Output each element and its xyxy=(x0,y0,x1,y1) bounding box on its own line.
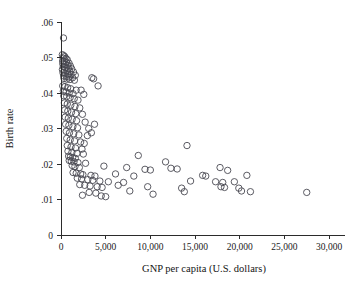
y-axis-tick-label: .05 xyxy=(41,53,53,63)
y-axis-tick-label: .03 xyxy=(41,124,53,134)
data-point xyxy=(131,173,137,179)
x-axis-tick-label: 10,000 xyxy=(137,242,163,252)
y-axis-tick-label: .02 xyxy=(41,160,53,170)
data-point xyxy=(79,111,85,117)
data-point xyxy=(112,171,118,177)
axes-group xyxy=(57,22,345,239)
data-point xyxy=(168,165,174,171)
data-point xyxy=(73,117,79,123)
data-point xyxy=(162,159,168,165)
data-point xyxy=(224,167,230,173)
data-point xyxy=(135,152,141,158)
data-point xyxy=(144,184,150,190)
x-axis-tick-label: 30,000 xyxy=(316,242,342,252)
data-point xyxy=(101,163,107,169)
data-point xyxy=(82,119,88,125)
data-point xyxy=(105,179,111,185)
x-axis-tick-label: 20,000 xyxy=(227,242,253,252)
data-point xyxy=(74,125,80,131)
y-axis-tick-label: .06 xyxy=(41,18,53,28)
data-point xyxy=(247,188,253,194)
x-axis-title: GNP per capita (U.S. dollars) xyxy=(142,263,266,275)
scatter-plot-figure: 05,00010,00015,00020,00025,00030,000 0.0… xyxy=(0,0,362,286)
data-markers-group xyxy=(59,35,310,200)
data-point xyxy=(123,164,129,170)
data-point xyxy=(82,160,88,166)
y-axis-title: Birth rate xyxy=(4,108,15,148)
data-point xyxy=(75,97,81,103)
y-axis-tick-label: .01 xyxy=(41,195,53,205)
data-point xyxy=(86,189,92,195)
data-point xyxy=(98,193,104,199)
data-point xyxy=(90,76,96,82)
y-axis-tick-labels: 0.01.02.03.04.05.06 xyxy=(41,18,53,241)
data-point xyxy=(69,116,75,122)
y-axis-tick-label: .04 xyxy=(41,89,53,99)
x-axis-tick-label: 25,000 xyxy=(271,242,297,252)
data-point xyxy=(304,189,310,195)
data-point xyxy=(91,121,97,127)
x-axis-tick-labels: 05,00010,00015,00020,00025,00030,000 xyxy=(59,242,343,252)
data-point xyxy=(115,182,121,188)
x-axis-tick-label: 15,000 xyxy=(182,242,208,252)
data-point xyxy=(102,193,108,199)
data-point xyxy=(174,166,180,172)
data-point xyxy=(73,110,79,116)
data-point xyxy=(68,109,74,115)
data-point xyxy=(95,83,101,89)
data-point xyxy=(79,192,85,198)
data-point xyxy=(212,179,218,185)
x-axis-tick-label: 0 xyxy=(59,242,64,252)
data-point xyxy=(187,178,193,184)
plot-canvas: 05,00010,00015,00020,00025,00030,000 0.0… xyxy=(0,0,362,286)
data-point xyxy=(77,139,83,145)
data-point xyxy=(127,188,133,194)
data-point xyxy=(217,164,223,170)
data-point xyxy=(184,142,190,148)
y-axis-tick-label: 0 xyxy=(48,231,53,241)
data-point xyxy=(68,102,74,108)
data-point xyxy=(150,191,156,197)
data-point xyxy=(231,179,237,185)
data-point xyxy=(71,138,77,144)
x-axis-tick-label: 5,000 xyxy=(95,242,117,252)
data-point xyxy=(70,124,76,130)
data-point xyxy=(244,172,250,178)
